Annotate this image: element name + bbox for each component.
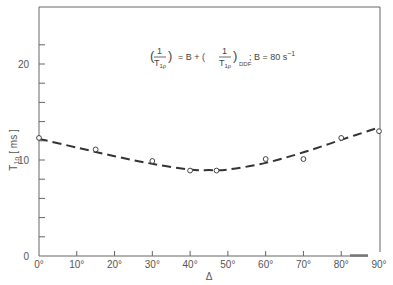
data-point — [377, 129, 382, 134]
x-tick-label: 60° — [258, 259, 273, 270]
svg-text:; B = 80 s−1: ; B = 80 s−1 — [249, 50, 295, 62]
svg-text:T1ρ[ ms ]: T1ρ[ ms ] — [8, 129, 21, 171]
y-axis-ticks: 01020 — [18, 45, 45, 262]
data-point — [339, 136, 344, 141]
x-tick-label: 10° — [69, 259, 84, 270]
formula-annotation: ( 1 T1ρ ) = B + ( 1 T1ρ ) DDF ; B = 80 s… — [150, 46, 295, 69]
data-point — [37, 136, 42, 141]
x-tick-label: 20° — [107, 259, 122, 270]
x-axis-label: Δ — [206, 271, 213, 282]
x-tick-label: 40° — [183, 259, 198, 270]
chart: 01020 0°10°20°30°40°50°60°70°80°90° T1ρ[… — [0, 0, 393, 285]
data-point — [188, 168, 193, 173]
b-value: ; B = 80 s — [249, 52, 288, 62]
fit-curve — [39, 127, 379, 170]
svg-text:): ) — [233, 48, 237, 63]
x-tick-label: 0° — [34, 259, 44, 270]
svg-text:T1ρ: T1ρ — [219, 58, 232, 69]
data-point — [301, 157, 306, 162]
x-axis-ticks: 0°10°20°30°40°50°60°70°80°90° — [34, 251, 386, 270]
lhs-numerator: 1 — [157, 46, 162, 56]
y-label-unit: [ ms ] — [8, 129, 19, 154]
x-tick-label: 50° — [220, 259, 235, 270]
data-point — [263, 157, 268, 162]
y-axis-label: T1ρ[ ms ] — [8, 129, 21, 171]
svg-text:T1ρ: T1ρ — [154, 58, 167, 69]
rhs-numerator: 1 — [222, 46, 227, 56]
data-point — [214, 168, 219, 173]
y-tick-label: 20 — [18, 59, 30, 70]
y-label-sub: 1ρ — [13, 157, 21, 165]
svg-text:): ) — [168, 48, 172, 63]
data-point — [93, 147, 98, 152]
y-tick-label: 0 — [23, 251, 29, 262]
x-tick-label: 90° — [371, 259, 386, 270]
x-tick-label: 80° — [334, 259, 349, 270]
formula-middle: = B + ( — [178, 52, 205, 62]
data-point — [150, 159, 155, 164]
x-tick-label: 70° — [296, 259, 311, 270]
plot-frame — [39, 7, 380, 256]
x-tick-label: 30° — [145, 259, 160, 270]
